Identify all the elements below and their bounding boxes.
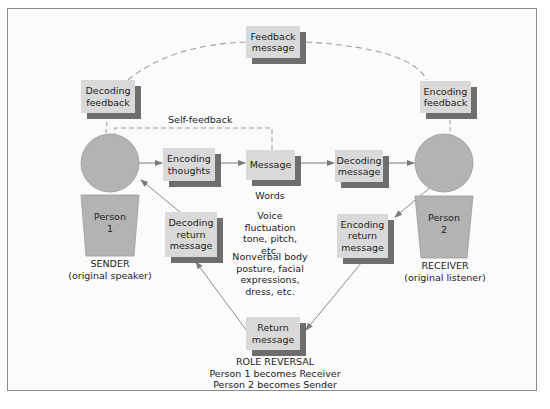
node-encoding-thoughts: Encoding thoughts — [163, 148, 215, 181]
node-label: Decoding return message — [169, 217, 214, 252]
feedback-arc-right — [306, 42, 427, 80]
person1-number: 1 — [81, 223, 139, 235]
role-reversal-line2: Person 2 becomes Sender — [203, 379, 347, 391]
receiver-role: RECEIVER — [393, 260, 497, 272]
person1-label: Person 1 — [81, 211, 139, 235]
voice-label: Voice fluctuation tone, pitch, etc. — [233, 210, 307, 256]
role-reversal-title: ROLE REVERSAL — [203, 356, 347, 368]
person1-name: Person — [81, 211, 139, 223]
node-label: Decoding feedback — [83, 85, 133, 108]
node-label: Encoding return message — [341, 219, 385, 254]
sender-caption: SENDER (original speaker) — [60, 258, 160, 282]
role-reversal-caption: ROLE REVERSAL Person 1 becomes Receiver … — [203, 356, 347, 391]
node-decoding-feedback: Decoding feedback — [81, 80, 135, 113]
person2-name: Person — [415, 212, 473, 224]
node-return-message: Return message — [246, 317, 300, 350]
receiver-role-detail: (original listener) — [393, 272, 497, 284]
words-label: Words — [240, 190, 300, 202]
person1-head — [81, 134, 139, 192]
node-message: Message — [246, 150, 295, 180]
person2-number: 2 — [415, 224, 473, 236]
receiver-caption: RECEIVER (original listener) — [393, 260, 497, 284]
sender-role: SENDER — [60, 258, 160, 270]
arrow-encoding-return-to-return — [306, 262, 362, 330]
node-label: Encoding thoughts — [165, 153, 213, 176]
node-encoding-return-message: Encoding return message — [337, 214, 388, 258]
node-encoding-feedback: Encoding feedback — [420, 81, 471, 113]
node-decoding-message: Decoding message — [335, 150, 383, 182]
sender-role-detail: (original speaker) — [60, 270, 160, 282]
nonverbal-label: Nonverbal body posture, facial expressio… — [227, 251, 313, 297]
node-feedback-message: Feedback message — [246, 26, 300, 58]
node-label: Message — [250, 159, 292, 171]
person2-head — [415, 134, 473, 192]
node-decoding-return-message: Decoding return message — [165, 212, 217, 257]
self-feedback-label: Self-feedback — [168, 114, 248, 126]
node-label: Feedback message — [248, 31, 298, 54]
node-label: Decoding message — [337, 155, 382, 178]
role-reversal-line1: Person 1 becomes Receiver — [203, 368, 347, 380]
feedback-arc-left — [128, 42, 246, 80]
person2-label: Person 2 — [415, 212, 473, 236]
node-label: Encoding feedback — [422, 86, 469, 109]
node-label: Return message — [248, 322, 298, 345]
